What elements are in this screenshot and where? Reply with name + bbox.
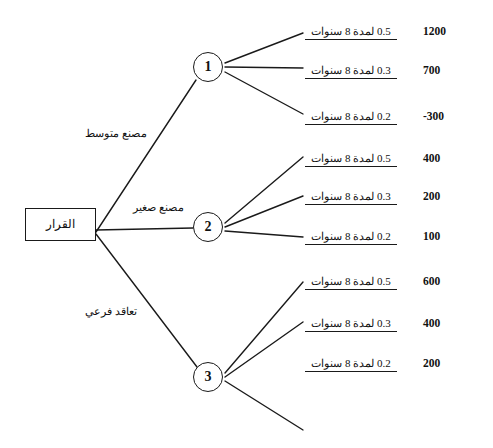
branch-label-medium-factory: مصنع متوسط bbox=[85, 127, 147, 140]
outcome-row: 0.2 لمدة 8 سنوات -300 bbox=[305, 110, 493, 126]
branch-label-small-factory: مصنع صغير bbox=[133, 201, 184, 214]
outcome-row: 0.5 لمدة 8 سنوات 400 bbox=[305, 152, 493, 168]
edge-node-2-outcome-2 bbox=[225, 196, 303, 227]
chance-node-2: 2 bbox=[193, 212, 223, 242]
outcome-payoff: 700 bbox=[423, 64, 473, 76]
decision-root-label: القرار bbox=[46, 217, 75, 232]
outcome-payoff: 100 bbox=[423, 230, 473, 242]
outcome-payoff: 200 bbox=[423, 357, 473, 369]
outcome-payoff: -300 bbox=[423, 110, 473, 122]
outcome-row: 0.3 لمدة 8 سنوات 200 bbox=[305, 190, 493, 206]
outcome-row: 0.5 لمدة 8 سنوات 600 bbox=[305, 275, 493, 291]
outcome-probability: 0.3 لمدة 8 سنوات bbox=[305, 64, 397, 79]
outcome-row: 0.3 لمدة 8 سنوات 400 bbox=[305, 317, 493, 333]
outcome-probability: 0.3 لمدة 8 سنوات bbox=[305, 317, 397, 332]
outcome-row: 0.2 لمدة 8 سنوات 200 bbox=[305, 357, 493, 373]
edge-node-1-outcome-2 bbox=[225, 67, 303, 68]
outcome-payoff: 600 bbox=[423, 275, 473, 287]
outcome-probability: 0.2 لمدة 8 سنوات bbox=[305, 230, 397, 245]
chance-node-3-label: 3 bbox=[205, 370, 212, 384]
outcome-payoff: 400 bbox=[423, 317, 473, 329]
chance-node-2-label: 2 bbox=[205, 220, 212, 234]
outcome-probability: 0.5 لمدة 8 سنوات bbox=[305, 152, 397, 167]
outcome-row: 0.2 لمدة 8 سنوات 100 bbox=[305, 230, 493, 246]
outcome-payoff: 1200 bbox=[423, 25, 473, 37]
edge-node-3-outcome-3 bbox=[225, 381, 303, 430]
outcome-probability: 0.5 لمدة 8 سنوات bbox=[305, 25, 397, 40]
outcome-probability: 0.3 لمدة 8 سنوات bbox=[305, 190, 397, 205]
outcome-probability: 0.2 لمدة 8 سنوات bbox=[305, 357, 397, 372]
edge-node-3-outcome-1 bbox=[225, 282, 303, 373]
edge-node-2-outcome-3 bbox=[225, 231, 303, 237]
edge-node-3-outcome-2 bbox=[225, 322, 303, 377]
chance-node-3: 3 bbox=[193, 362, 223, 392]
outcome-row: 0.3 لمدة 8 سنوات 700 bbox=[305, 64, 493, 80]
edge-root-to-node-3 bbox=[96, 234, 197, 367]
branch-label-subcontracting: تعاقد فرعي bbox=[85, 305, 137, 318]
outcome-probability: 0.5 لمدة 8 سنوات bbox=[305, 275, 397, 290]
outcome-probability: 0.2 لمدة 8 سنوات bbox=[305, 110, 397, 125]
edge-root-to-node-2 bbox=[96, 228, 193, 230]
outcome-row: 0.5 لمدة 8 سنوات 1200 bbox=[305, 25, 493, 41]
chance-node-1: 1 bbox=[193, 52, 223, 82]
outcome-payoff: 200 bbox=[423, 190, 473, 202]
chance-node-1-label: 1 bbox=[205, 60, 212, 74]
edge-node-2-outcome-1 bbox=[225, 157, 303, 223]
outcome-payoff: 400 bbox=[423, 152, 473, 164]
edge-node-1-outcome-1 bbox=[225, 33, 303, 63]
edge-node-1-outcome-3 bbox=[225, 72, 303, 114]
decision-root-box: القرار bbox=[25, 208, 96, 241]
